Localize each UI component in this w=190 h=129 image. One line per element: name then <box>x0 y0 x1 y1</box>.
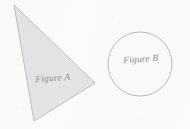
figures-drawing: Figure A Figure B <box>0 0 190 129</box>
figure-canvas: Figure A Figure B <box>0 0 190 129</box>
figure-b-label: Figure B <box>122 53 159 66</box>
figure-a-triangle <box>14 5 95 121</box>
